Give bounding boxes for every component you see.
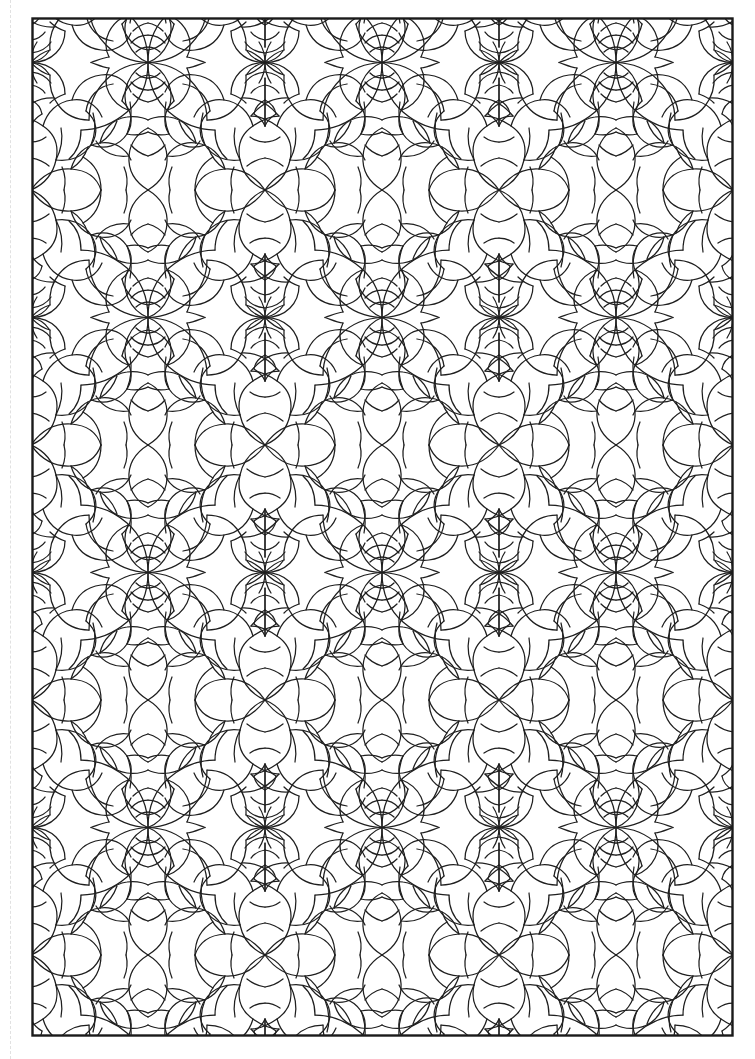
pattern-svg [31,17,734,1037]
artwork-frame [31,17,734,1037]
artwork-background [31,17,734,1037]
trim-guide-dashed-line [10,0,11,1059]
coloring-page [0,0,755,1059]
